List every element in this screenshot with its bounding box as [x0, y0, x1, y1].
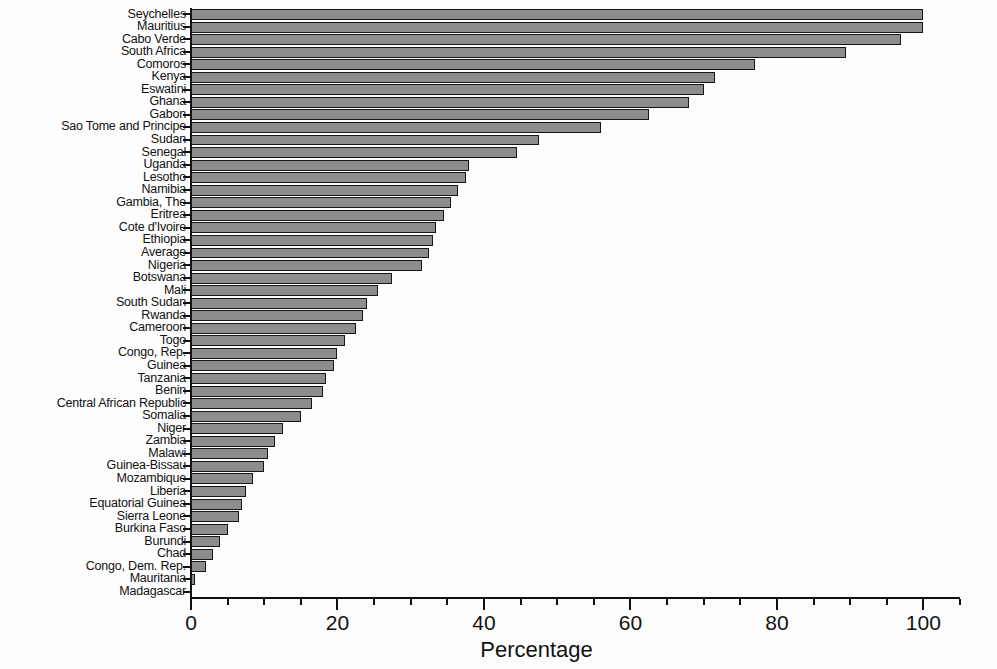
bar [191, 9, 923, 20]
y-axis-tick [183, 151, 191, 153]
bar [191, 147, 517, 158]
x-axis-minor-tick [886, 599, 888, 605]
bar-row [191, 259, 960, 272]
bar [191, 461, 264, 472]
y-axis-tick [183, 51, 191, 53]
bar [191, 448, 268, 459]
bar [191, 197, 451, 208]
y-axis-tick [183, 465, 191, 467]
y-axis-tick [183, 327, 191, 329]
x-axis-minor-tick [813, 599, 815, 605]
y-axis-tick [183, 239, 191, 241]
bar-row [191, 21, 960, 34]
y-axis-tick [183, 490, 191, 492]
bar-row [191, 359, 960, 372]
x-axis-tick-label: 20 [326, 611, 349, 635]
y-axis-tick [183, 340, 191, 342]
y-axis-tick [183, 566, 191, 568]
bar [191, 84, 704, 95]
y-axis-tick [183, 515, 191, 517]
x-axis-major-tick [190, 599, 192, 610]
category-label: Namibia [1, 183, 186, 196]
bar [191, 574, 195, 585]
x-axis-minor-tick [263, 599, 265, 605]
bar-row [191, 535, 960, 548]
x-axis-minor-tick [227, 599, 229, 605]
y-axis-tick [183, 377, 191, 379]
bar-row [191, 410, 960, 423]
bar-row [191, 334, 960, 347]
y-axis-tick [183, 302, 191, 304]
category-label: Eritrea [1, 208, 186, 221]
bar-row [191, 372, 960, 385]
x-axis-minor-tick [959, 599, 961, 605]
category-label: Benin [1, 384, 186, 397]
x-axis-line [190, 597, 960, 599]
bar [191, 22, 923, 33]
y-axis-tick [183, 453, 191, 455]
y-axis-tick [183, 89, 191, 91]
y-axis-tick [183, 164, 191, 166]
bar [191, 524, 228, 535]
plot-area [191, 8, 960, 598]
x-axis-minor-tick [520, 599, 522, 605]
bar [191, 273, 392, 284]
category-label: Average [1, 246, 186, 259]
y-axis-tick [183, 289, 191, 291]
x-axis-minor-tick [593, 599, 595, 605]
bar [191, 348, 337, 359]
bar [191, 411, 301, 422]
category-label: Madagascar [1, 585, 186, 598]
y-axis-tick [183, 189, 191, 191]
bar [191, 423, 283, 434]
bar-row [191, 309, 960, 322]
bar-row [191, 397, 960, 410]
x-axis-tick-label: 60 [619, 611, 642, 635]
bar [191, 561, 206, 572]
bar-row [191, 322, 960, 335]
y-axis-tick [183, 227, 191, 229]
y-axis-tick [183, 13, 191, 15]
bar-row [191, 108, 960, 121]
bar-row [191, 8, 960, 21]
x-axis-major-tick [629, 599, 631, 610]
x-axis-tick-label: 40 [472, 611, 495, 635]
y-axis-tick [183, 478, 191, 480]
bar-row [191, 196, 960, 209]
y-axis-tick [183, 214, 191, 216]
x-axis-minor-tick [739, 599, 741, 605]
bar [191, 260, 422, 271]
bar [191, 172, 466, 183]
bar-row [191, 347, 960, 360]
bar-row [191, 435, 960, 448]
bar [191, 298, 367, 309]
bar-row [191, 146, 960, 159]
bar-row [191, 134, 960, 147]
bar-row [191, 523, 960, 536]
y-axis-tick [183, 26, 191, 28]
bar-row [191, 121, 960, 134]
bar [191, 72, 715, 83]
x-axis-major-tick [336, 599, 338, 610]
bar-row [191, 46, 960, 59]
category-label: Sudan [1, 133, 186, 146]
bar-row [191, 71, 960, 84]
category-axis-labels: SeychellesMauritiusCabo VerdeSouth Afric… [0, 8, 186, 598]
category-label: South Sudan [1, 296, 186, 309]
y-axis-tick [183, 277, 191, 279]
bar-row [191, 560, 960, 573]
bar-row [191, 171, 960, 184]
y-axis-tick [183, 390, 191, 392]
x-axis-minor-tick [373, 599, 375, 605]
y-axis-tick [183, 402, 191, 404]
category-label: Mauritius [1, 20, 186, 33]
y-axis-tick [183, 440, 191, 442]
category-label: Zambia [1, 434, 186, 447]
category-label: Somalia [1, 409, 186, 422]
y-axis-tick [183, 553, 191, 555]
bar-row [191, 485, 960, 498]
y-axis-tick [183, 202, 191, 204]
y-axis-tick [183, 591, 191, 593]
category-label: Uganda [1, 158, 186, 171]
x-axis-minor-tick [666, 599, 668, 605]
